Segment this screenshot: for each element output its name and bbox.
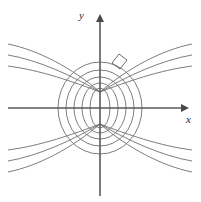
y-axis-label: y bbox=[79, 10, 84, 21]
x-axis-arrowhead bbox=[181, 104, 189, 112]
x-axis-label: x bbox=[186, 114, 191, 125]
conics-canvas bbox=[0, 0, 201, 202]
y-axis-arrowhead bbox=[96, 14, 104, 22]
conics-figure: x y bbox=[0, 0, 201, 202]
axes-group bbox=[8, 14, 189, 196]
